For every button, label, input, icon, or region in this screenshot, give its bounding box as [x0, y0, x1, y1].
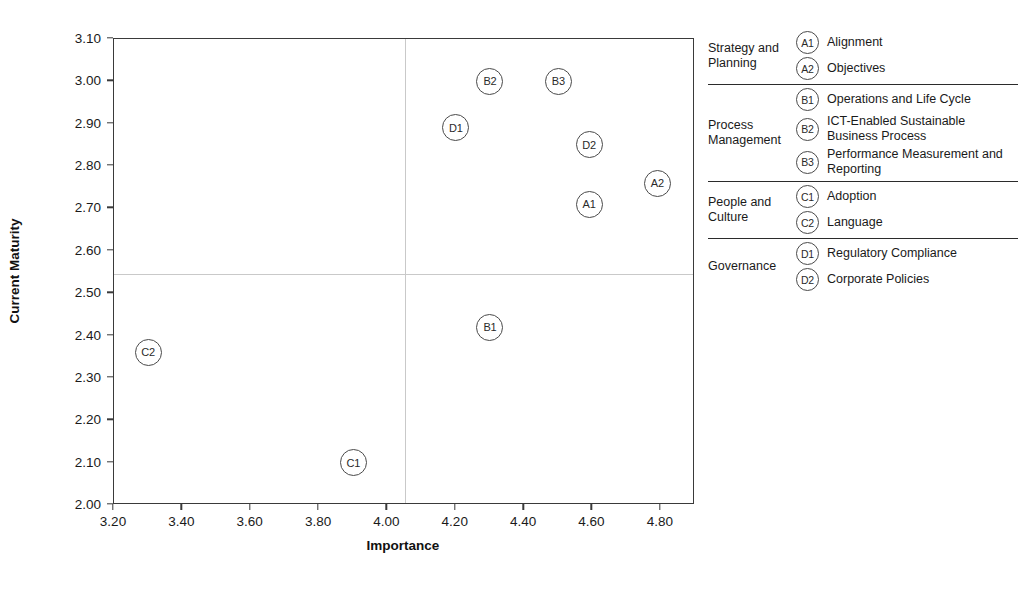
x-axis-tick-label: 4.00 [373, 514, 399, 529]
legend-group: People and CultureC1AdoptionC2Language [708, 181, 1018, 238]
x-axis-tick-mark [659, 504, 660, 510]
x-axis-tick-label: 3.20 [100, 514, 126, 529]
legend-badge-c1: C1 [796, 185, 819, 208]
data-point-b1: B1 [476, 314, 503, 341]
x-axis-tick-mark [454, 504, 455, 510]
y-axis-tick-label: 2.30 [35, 369, 101, 384]
x-axis-tick-mark [522, 504, 523, 510]
x-axis-tick-label: 3.40 [168, 514, 194, 529]
x-axis-tick-label: 3.80 [305, 514, 331, 529]
legend-entry-d2: D2Corporate Policies [796, 268, 1018, 291]
y-axis-tick-label: 2.20 [35, 412, 101, 427]
y-axis-tick-mark [107, 291, 113, 292]
legend-entry-b2: B2ICT-Enabled Sustainable Business Proce… [796, 114, 1018, 144]
legend-group-title: People and Culture [708, 195, 796, 225]
x-axis-tick-mark [181, 504, 182, 510]
legend-entry-a1: A1Alignment [796, 31, 1018, 54]
legend-badge-b2: B2 [796, 118, 819, 141]
y-axis-tick-mark [107, 37, 113, 38]
legend-label: Corporate Policies [827, 272, 929, 287]
y-axis-tick-mark [107, 164, 113, 165]
chart-page: Current Maturity Importance A1A2B1B2B3C1… [0, 0, 1032, 592]
legend-badge-c2: C2 [796, 211, 819, 234]
y-axis-tick-label: 3.10 [35, 31, 101, 46]
x-axis-tick-label: 4.20 [442, 514, 468, 529]
legend-entry-a2: A2Objectives [796, 57, 1018, 80]
legend-group-title: Process Management [708, 118, 796, 148]
x-axis-tick-mark [591, 504, 592, 510]
legend-badge-b3: B3 [796, 151, 819, 174]
legend-entry-d1: D1Regulatory Compliance [796, 242, 1018, 265]
y-axis-tick-mark [107, 461, 113, 462]
x-axis-tick-mark [249, 504, 250, 510]
y-axis-tick-label: 2.40 [35, 327, 101, 342]
x-axis-tick-label: 4.80 [647, 514, 673, 529]
legend-label: Operations and Life Cycle [827, 92, 971, 107]
y-axis-tick-label: 2.50 [35, 285, 101, 300]
x-axis-tick-label: 4.40 [510, 514, 536, 529]
legend-entries: B1Operations and Life CycleB2ICT-Enabled… [796, 88, 1018, 177]
data-point-d1: D1 [442, 114, 469, 141]
x-axis-title: Importance [367, 538, 440, 553]
legend-group-title: Governance [708, 259, 796, 274]
x-axis-tick-mark [317, 504, 318, 510]
legend-label: Objectives [827, 61, 885, 76]
x-axis-tick-mark [112, 504, 113, 510]
legend-badge-d2: D2 [796, 268, 819, 291]
y-axis-tick-mark [107, 249, 113, 250]
y-axis-tick-mark [107, 419, 113, 420]
y-axis-tick-mark [107, 334, 113, 335]
legend-label: ICT-Enabled Sustainable Business Process [827, 114, 1018, 144]
legend-entry-c1: C1Adoption [796, 185, 1018, 208]
y-axis-tick-label: 2.00 [35, 497, 101, 512]
legend-group-title: Strategy and Planning [708, 41, 796, 71]
legend-badge-a2: A2 [796, 57, 819, 80]
legend-entries: A1AlignmentA2Objectives [796, 31, 1018, 80]
y-axis-tick-label: 2.10 [35, 454, 101, 469]
legend-entries: C1AdoptionC2Language [796, 185, 1018, 234]
y-axis-tick-mark [107, 207, 113, 208]
legend-entries: D1Regulatory ComplianceD2Corporate Polic… [796, 242, 1018, 291]
legend-label: Language [827, 215, 883, 230]
x-axis-tick-mark [386, 504, 387, 510]
data-point-c2: C2 [135, 339, 162, 366]
y-axis-tick-mark [107, 80, 113, 81]
legend-group: Process ManagementB1Operations and Life … [708, 84, 1018, 181]
plot-area: A1A2B1B2B3C1C2D1D2 [113, 38, 694, 504]
legend-label: Performance Measurement and Reporting [827, 147, 1018, 177]
x-axis-tick-label: 4.60 [578, 514, 604, 529]
data-point-d2: D2 [576, 131, 603, 158]
y-axis-tick-mark [107, 122, 113, 123]
scatter-chart: Current Maturity Importance A1A2B1B2B3C1… [0, 0, 700, 592]
y-axis-tick-label: 2.70 [35, 200, 101, 215]
data-point-a2: A2 [644, 170, 671, 197]
legend-entry-b1: B1Operations and Life Cycle [796, 88, 1018, 111]
legend-group: Strategy and PlanningA1AlignmentA2Object… [708, 28, 1018, 84]
y-axis-title: Current Maturity [7, 218, 22, 323]
y-axis-tick-label: 2.90 [35, 115, 101, 130]
x-axis-tick-label: 3.60 [237, 514, 263, 529]
y-axis-tick-mark [107, 376, 113, 377]
legend-badge-d1: D1 [796, 242, 819, 265]
data-point-c1: C1 [340, 449, 367, 476]
legend: Strategy and PlanningA1AlignmentA2Object… [708, 28, 1018, 295]
quadrant-vertical-line [405, 39, 406, 503]
legend-label: Adoption [827, 189, 876, 204]
y-axis-tick-label: 3.00 [35, 73, 101, 88]
data-point-a1: A1 [576, 191, 603, 218]
quadrant-horizontal-line [114, 274, 693, 275]
data-point-b2: B2 [476, 68, 503, 95]
legend-badge-a1: A1 [796, 31, 819, 54]
y-axis-tick-label: 2.60 [35, 242, 101, 257]
y-axis-tick-label: 2.80 [35, 158, 101, 173]
legend-group: GovernanceD1Regulatory ComplianceD2Corpo… [708, 238, 1018, 295]
legend-badge-b1: B1 [796, 88, 819, 111]
legend-label: Alignment [827, 35, 883, 50]
data-point-b3: B3 [545, 68, 572, 95]
legend-entry-c2: C2Language [796, 211, 1018, 234]
legend-entry-b3: B3Performance Measurement and Reporting [796, 147, 1018, 177]
legend-label: Regulatory Compliance [827, 246, 957, 261]
